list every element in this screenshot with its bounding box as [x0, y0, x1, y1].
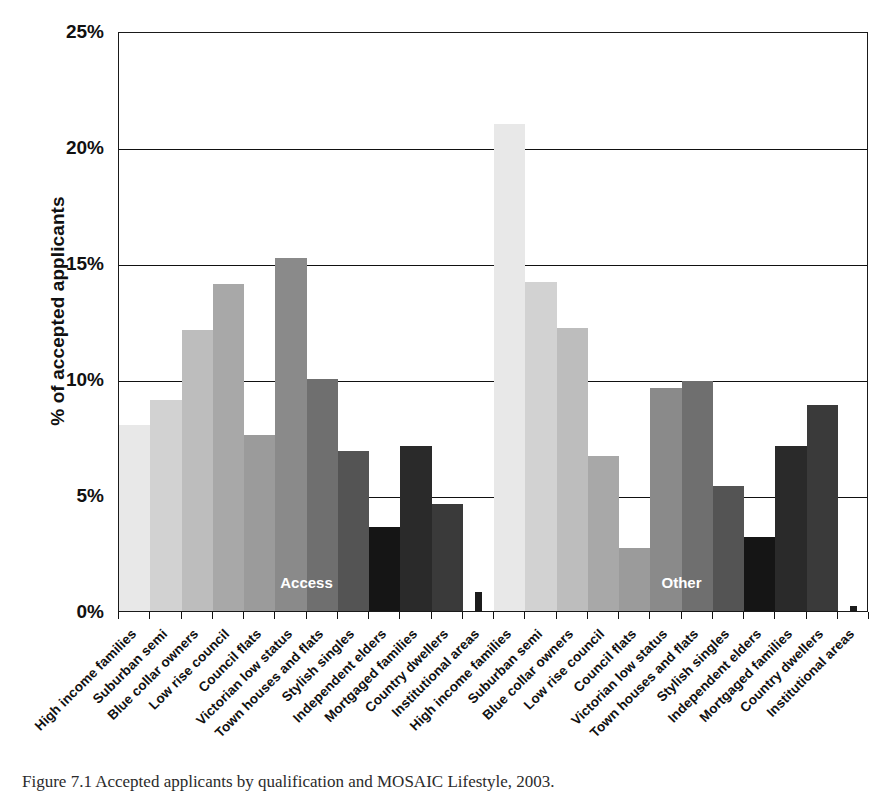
bar — [494, 124, 525, 611]
x-axis-tick — [149, 612, 150, 619]
x-axis-tick — [681, 612, 682, 619]
x-axis-tick — [462, 612, 463, 619]
x-axis-tick — [274, 612, 275, 619]
bar — [475, 592, 482, 611]
bar — [807, 405, 838, 611]
bar — [850, 606, 857, 611]
x-axis-tick — [618, 612, 619, 619]
x-axis-tick — [868, 612, 869, 619]
bar — [619, 548, 650, 611]
bar — [307, 379, 338, 611]
x-axis-tick — [368, 612, 369, 619]
y-axis-tick-label: 0% — [0, 601, 104, 623]
x-axis-tick — [524, 612, 525, 619]
y-axis-tick-label: 20% — [0, 137, 104, 159]
bar — [713, 486, 744, 611]
x-axis-tick — [743, 612, 744, 619]
y-axis-tick-label: 5% — [0, 485, 104, 507]
bar — [244, 435, 275, 611]
bar — [650, 388, 681, 611]
x-axis-tick — [493, 612, 494, 619]
y-axis-tick-label: 25% — [0, 21, 104, 43]
x-axis-tick — [556, 612, 557, 619]
x-axis-tick — [774, 612, 775, 619]
x-axis-tick — [587, 612, 588, 619]
x-axis-tick — [837, 612, 838, 619]
x-axis-tick — [806, 612, 807, 619]
bar — [432, 504, 463, 611]
bar — [557, 328, 588, 611]
bar — [682, 381, 713, 611]
bar — [182, 330, 213, 611]
bar — [119, 425, 150, 611]
bar — [588, 456, 619, 611]
x-axis-tick — [181, 612, 182, 619]
plot-area: AccessOther — [118, 32, 868, 612]
y-axis-title: % of accepted applicants — [47, 161, 69, 461]
x-axis-tick — [649, 612, 650, 619]
bar — [369, 527, 400, 611]
y-axis-tick-label: 10% — [0, 369, 104, 391]
x-axis-tick — [431, 612, 432, 619]
x-axis-tick — [337, 612, 338, 619]
gridline — [119, 149, 867, 150]
x-axis-tick — [306, 612, 307, 619]
bar — [338, 451, 369, 611]
bar — [213, 284, 244, 611]
figure-caption: Figure 7.1 Accepted applicants by qualif… — [22, 772, 555, 792]
x-axis-tick — [212, 612, 213, 619]
bar — [744, 537, 775, 611]
x-axis-tick — [118, 612, 119, 619]
figure-container: % of accepted applicants 0%5%10%15%20%25… — [0, 0, 882, 794]
x-axis-tick — [712, 612, 713, 619]
bar — [775, 446, 806, 611]
x-axis-tick — [399, 612, 400, 619]
x-axis-tick — [243, 612, 244, 619]
bar — [150, 400, 181, 611]
y-axis-tick-label: 15% — [0, 253, 104, 275]
bar — [400, 446, 431, 611]
bar — [275, 258, 306, 611]
gridline — [119, 265, 867, 266]
bar — [525, 282, 556, 611]
